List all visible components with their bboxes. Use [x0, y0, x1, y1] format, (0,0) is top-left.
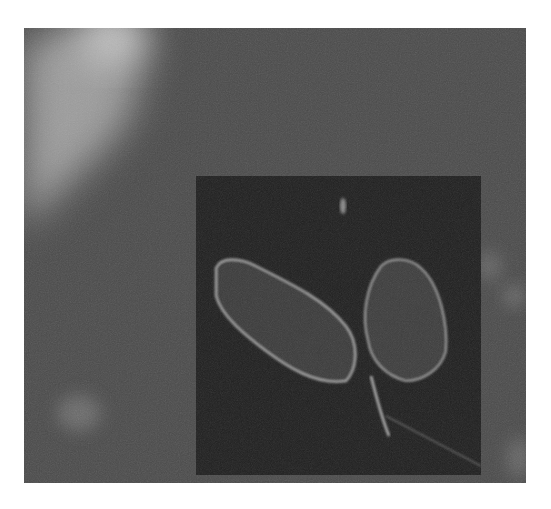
magnified-inset [196, 176, 481, 475]
cells-view [196, 176, 481, 475]
